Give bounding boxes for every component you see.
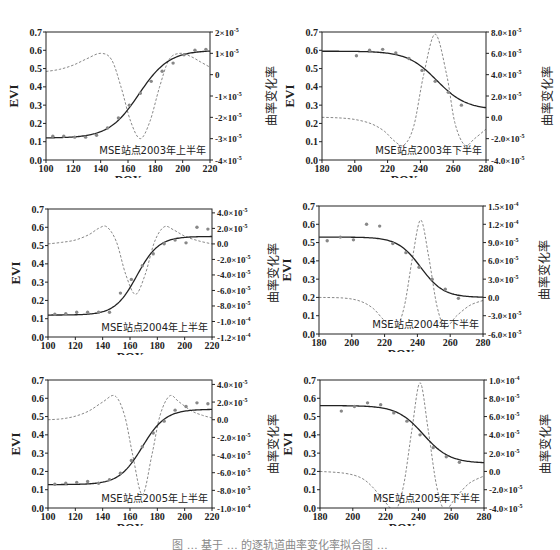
observed-evi-point [391,242,394,245]
observed-evi-point [340,409,343,412]
right-axis-tick-label: -3×10-5 [215,133,242,144]
fitted-evi-curve [322,51,486,107]
x-axis-tick-label: 200 [177,511,192,522]
right-axis-tick-label: -8.0×10-5 [217,300,250,311]
x-axis-tick-label: 200 [347,163,362,174]
observed-evi-point [106,126,109,129]
panel-title: MSE站点2004年上半年 [101,321,208,333]
left-axis-tick-label: 0.7 [30,27,43,38]
plot-frame [320,380,484,508]
observed-evi-point [195,226,198,229]
right-axis-tick-label: 1.0×10-4 [489,375,519,386]
right-axis-tick-label: 0.0 [489,467,501,477]
left-axis-title: EVI [8,432,23,455]
curvature-rate-curve [319,220,483,327]
right-axis-tick-label: 1.5×10-4 [488,201,518,212]
chart-svg: 0.00.10.20.30.40.50.60.71001201401601802… [2,177,284,355]
left-axis-tick-label: 0.3 [306,100,319,111]
left-axis-tick-label: 0.2 [306,118,319,129]
left-axis-tick-label: 0.1 [30,136,43,147]
right-axis-tick-label: 0.0 [491,113,503,123]
left-axis-tick-label: 0.2 [32,466,45,477]
observed-evi-point [130,459,133,462]
right-axis-tick-label: -2.0×10-5 [489,484,522,495]
x-axis-tick-label: 140 [95,511,110,522]
observed-evi-point [97,482,100,485]
right-axis-title: 曲率变化率 [540,66,555,126]
chart-panel-2005-second-half: 0.00.10.20.30.40.50.60.71802002202402602… [274,348,556,530]
figure-caption: 图 … 基于 … 的逐轨道曲率变化率拟合图 … [0,536,560,550]
observed-evi-point [139,92,142,95]
left-axis-tick-label: 0.4 [306,81,319,92]
right-axis-tick-label: -1.2×10-4 [217,332,250,343]
x-axis-tick-label: 260 [443,337,458,348]
chart-panel-2004-first-half: 0.00.10.20.30.40.50.60.71001201401601802… [2,177,284,359]
right-axis-tick-label: -6.0×10-5 [217,285,250,296]
right-axis-tick-label: -2.0×10-5 [217,432,250,443]
x-axis-tick-label: 200 [175,163,190,174]
chart-panel-2005-first-half: 0.00.10.20.30.40.50.60.71001201401601802… [2,348,284,530]
observed-evi-point [430,277,433,280]
right-axis-tick-label: 2.0×10-5 [217,223,247,234]
observed-evi-point [75,311,78,314]
observed-evi-point [447,91,450,94]
right-axis-tick-label: 0.0 [488,293,500,303]
left-axis-tick-label: 0.1 [32,484,45,495]
left-axis-tick-label: 0.2 [32,295,45,306]
left-axis-title: EVI [279,258,294,281]
right-axis-tick-label: -4.0×10-5 [217,269,250,280]
left-axis-tick-label: 0.3 [304,448,317,459]
panel-title: MSE站点2003年下半年 [375,144,482,156]
left-axis-title: EVI [280,432,295,455]
observed-evi-point [97,311,100,314]
observed-evi-point [458,461,461,464]
right-axis-tick-label: 2.0×10-5 [491,91,521,102]
right-axis-tick-label: -1.0×10-4 [217,503,250,514]
x-axis-title: DOY [117,521,144,526]
left-axis-tick-label: 0.4 [32,429,45,440]
chart-svg: 0.00.10.20.30.40.50.60.71802002202402602… [276,0,558,178]
left-axis-tick-label: 0.6 [30,45,43,56]
right-axis-tick-label: 8.0×10-5 [489,393,519,404]
observed-evi-point [195,401,198,404]
right-axis-tick-label: -1.0×10-4 [217,316,250,327]
observed-evi-point [128,103,131,106]
x-axis-tick-label: 180 [313,511,328,522]
x-axis-tick-label: 180 [312,337,327,348]
right-axis-tick-label: 6.0×10-5 [488,255,518,266]
right-axis-tick-label: 0 [215,70,220,80]
observed-evi-point [457,297,460,300]
curvature-rate-curve [48,226,212,294]
right-axis-tick-label: 0.0 [217,415,229,425]
left-axis-tick-label: 0.7 [306,27,319,38]
right-axis-title: 曲率变化率 [537,240,552,300]
chart-svg: 0.00.10.20.30.40.50.60.71001201401601802… [0,0,282,178]
observed-evi-point [51,135,54,138]
curvature-rate-curve [46,53,210,138]
left-axis-tick-label: 0.3 [32,277,45,288]
right-axis-tick-label: 1×10-5 [215,48,239,59]
left-axis-tick-label: 0.3 [30,100,43,111]
right-axis-tick-label: -1×10-5 [215,91,242,102]
x-axis-tick-label: 260 [444,511,459,522]
observed-evi-point [162,419,165,422]
observed-evi-point [117,116,120,119]
observed-evi-point [184,405,187,408]
observed-evi-point [368,49,371,52]
plot-frame [48,209,212,337]
right-axis-tick-label: -2.0×10-5 [491,133,524,144]
right-axis-tick-label: -4.0×10-5 [489,503,522,514]
fitted-evi-curve [320,406,484,463]
observed-evi-point [62,135,65,138]
left-axis-tick-label: 0.6 [303,219,316,230]
observed-evi-point [73,135,76,138]
left-axis-tick-label: 0.7 [32,204,45,215]
observed-evi-point [339,235,342,238]
observed-evi-point [108,478,111,481]
observed-evi-point [184,241,187,244]
right-axis-tick-label: 4.0×10-5 [217,207,247,218]
observed-evi-point [162,242,165,245]
plot-frame [319,206,483,334]
observed-evi-point [366,401,369,404]
observed-evi-point [75,481,78,484]
